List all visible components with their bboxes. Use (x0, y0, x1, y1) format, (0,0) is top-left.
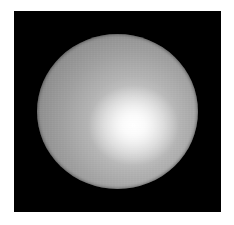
sphere-rim-shading (37, 34, 198, 189)
shaded-sphere (37, 34, 198, 189)
black-background-frame (14, 11, 221, 212)
